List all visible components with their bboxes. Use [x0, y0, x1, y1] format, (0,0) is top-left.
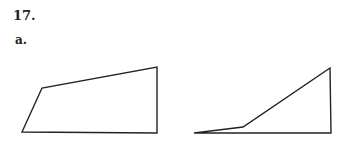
quadrilateral-left — [22, 67, 157, 133]
quadrilateral-right — [194, 68, 331, 133]
figures-canvas — [0, 0, 340, 141]
